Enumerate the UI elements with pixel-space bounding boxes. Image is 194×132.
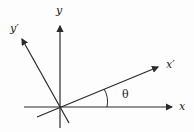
x-axis-label: x	[179, 100, 185, 113]
theta-label: θ	[122, 88, 129, 101]
y-axis-label: y	[56, 4, 62, 17]
x-prime-axis	[37, 67, 158, 117]
theta-arc	[104, 89, 108, 107]
rotated-axes-diagram: y y′ x′ x θ	[0, 0, 194, 132]
y-prime-axis-label: y′	[10, 22, 19, 35]
y-prime-axis	[22, 39, 69, 123]
axes-drawing	[0, 0, 194, 132]
x-prime-axis-label: x′	[166, 58, 175, 71]
